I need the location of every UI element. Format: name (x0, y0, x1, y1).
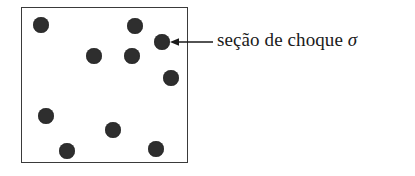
particle-10 (148, 141, 164, 157)
particle-5 (124, 48, 140, 64)
particle-2 (127, 18, 143, 34)
particle-1 (33, 17, 49, 33)
particle-9 (59, 143, 75, 159)
sigma-symbol: σ (348, 29, 357, 50)
cross-section-label-text: seção de choque (217, 29, 348, 50)
particle-4 (86, 48, 102, 64)
particle-8 (105, 122, 121, 138)
particle-6 (163, 70, 179, 86)
cross-section-label: seção de choque σ (217, 28, 357, 52)
cross-section-figure: seção de choque σ (0, 0, 415, 176)
particle-7 (38, 108, 54, 124)
arrow-head-icon (170, 38, 179, 45)
